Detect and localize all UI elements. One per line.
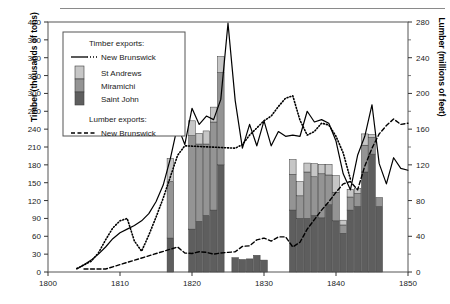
y-tick-label-left: 390 bbox=[28, 36, 42, 45]
y-tick-label-right: 240 bbox=[416, 54, 430, 63]
bar-segment bbox=[203, 144, 210, 215]
bar-segment bbox=[361, 172, 368, 272]
bar-segment bbox=[311, 215, 318, 272]
y-tick-label-left: 60 bbox=[32, 232, 41, 241]
bar-segment bbox=[297, 196, 304, 219]
bar-segment bbox=[253, 255, 260, 272]
legend-label-region: Saint John bbox=[101, 95, 139, 104]
bar-segment bbox=[232, 258, 239, 272]
bar-segment bbox=[297, 182, 304, 196]
bar-segment bbox=[189, 229, 196, 272]
x-tick-label: 1800 bbox=[39, 279, 57, 288]
legend-label-timber-nb: New Brunswick bbox=[101, 53, 157, 62]
bar-segment bbox=[333, 192, 340, 221]
bar-segment bbox=[318, 164, 325, 174]
legend-swatch bbox=[75, 92, 84, 105]
x-tick-label: 1840 bbox=[327, 279, 345, 288]
bar-segment bbox=[289, 210, 296, 272]
x-tick-label: 1820 bbox=[183, 279, 201, 288]
y-tick-label-right: 80 bbox=[416, 197, 425, 206]
bar-segment bbox=[347, 197, 354, 210]
bar-segment bbox=[210, 210, 217, 272]
bar-segment bbox=[261, 260, 268, 272]
bar-segment bbox=[318, 218, 325, 272]
bar-segment bbox=[325, 164, 332, 175]
y-tick-label-left: 120 bbox=[28, 197, 42, 206]
bar-segment bbox=[203, 131, 210, 144]
bar-segment bbox=[210, 122, 217, 210]
bar-segment bbox=[167, 238, 174, 272]
y-tick-label-left: 240 bbox=[28, 125, 42, 134]
bar-segment bbox=[311, 164, 318, 177]
bar-segment bbox=[376, 198, 383, 207]
bar-segment bbox=[239, 260, 246, 273]
y-tick-label-right: 280 bbox=[416, 18, 430, 27]
y-tick-label-right: 0 bbox=[416, 268, 421, 277]
bar-segment bbox=[340, 225, 347, 233]
x-tick-label: 1850 bbox=[399, 279, 417, 288]
legend-heading-lumber: Lumber exports: bbox=[89, 115, 147, 124]
bar-segment bbox=[289, 160, 296, 175]
legend-group: Timber exports:New BrunswickSt AndrewsMi… bbox=[63, 32, 185, 138]
legend-swatch bbox=[75, 66, 84, 79]
bar-segment bbox=[325, 205, 332, 272]
bar-segment bbox=[340, 220, 347, 225]
bar-segment bbox=[369, 135, 376, 138]
bar-segment bbox=[325, 175, 332, 205]
y-tick-label-left: 150 bbox=[28, 179, 42, 188]
y-tick-label-left: 300 bbox=[28, 89, 42, 98]
bar-segment bbox=[304, 172, 311, 218]
y-tick-label-left: 30 bbox=[32, 250, 41, 259]
legend-label-lumber-nb: New Brunswick bbox=[101, 129, 157, 138]
bar-segment bbox=[167, 182, 174, 239]
legend-heading-timber: Timber exports: bbox=[89, 39, 144, 48]
bar-segment bbox=[289, 174, 296, 210]
bar-segment bbox=[354, 193, 361, 206]
chart-canvas: 0306090120150180210240270300330360390420… bbox=[0, 0, 450, 304]
bar-segment bbox=[347, 210, 354, 272]
bar-segment bbox=[318, 174, 325, 218]
bar-segment bbox=[369, 154, 376, 272]
legend-label-region: Miramichi bbox=[101, 82, 135, 91]
y-tick-label-left: 420 bbox=[28, 18, 42, 27]
bar-segment bbox=[196, 221, 203, 272]
y-tick-label-right: 40 bbox=[416, 232, 425, 241]
bar-segment bbox=[196, 144, 203, 221]
y-tick-label-left: 210 bbox=[28, 143, 42, 152]
y-tick-label-right: 160 bbox=[416, 125, 430, 134]
y-tick-label-left: 330 bbox=[28, 72, 42, 81]
y-tick-label-right: 200 bbox=[416, 89, 430, 98]
bar-segment bbox=[354, 207, 361, 272]
legend-swatch bbox=[75, 79, 84, 92]
figure-root: Timber (thousands of tons) Lumber (milli… bbox=[0, 0, 450, 304]
bar-segment bbox=[304, 163, 311, 172]
bar-segment bbox=[217, 73, 224, 165]
y-tick-label-right: 120 bbox=[416, 161, 430, 170]
bar-segment bbox=[246, 259, 253, 272]
bar-segment bbox=[203, 215, 210, 272]
bar-segment bbox=[340, 233, 347, 272]
bar-segment bbox=[333, 221, 340, 272]
y-tick-label-left: 90 bbox=[32, 214, 41, 223]
x-tick-label: 1830 bbox=[255, 279, 273, 288]
y-tick-label-left: 180 bbox=[28, 161, 42, 170]
legend-label-region: St Andrews bbox=[101, 69, 141, 78]
bar-segment bbox=[376, 207, 383, 272]
bar-segment bbox=[311, 177, 318, 216]
y-tick-label-left: 270 bbox=[28, 107, 42, 116]
bar-segment bbox=[369, 137, 376, 154]
bar-segment bbox=[217, 165, 224, 272]
bar-segment bbox=[196, 133, 203, 144]
y-tick-label-left: 360 bbox=[28, 54, 42, 63]
y-tick-label-left: 0 bbox=[37, 268, 42, 277]
x-tick-label: 1810 bbox=[111, 279, 129, 288]
bar-segment bbox=[297, 218, 304, 272]
bar-segment bbox=[189, 136, 196, 229]
